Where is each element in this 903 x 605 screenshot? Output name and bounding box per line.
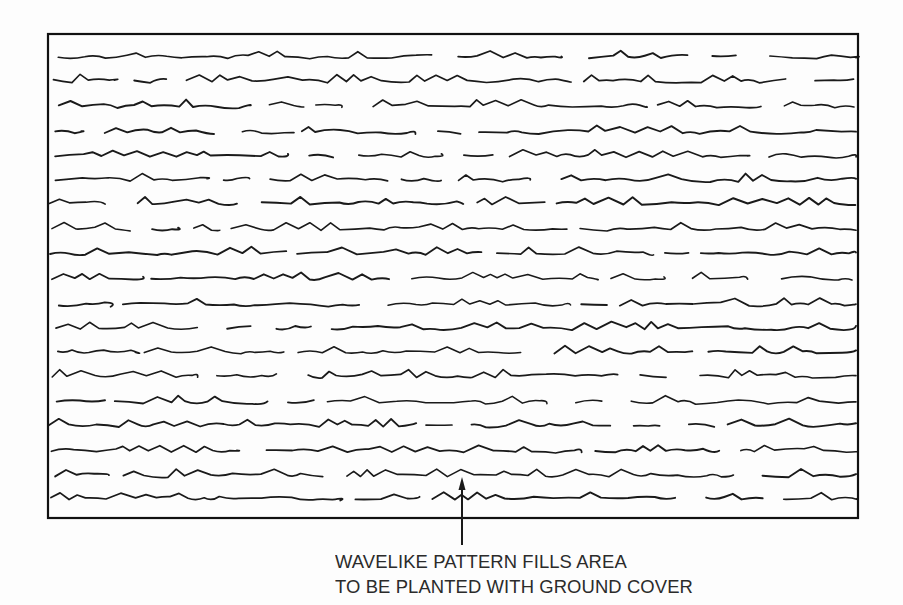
hatch-stroke bbox=[665, 253, 689, 254]
figure-caption: WAVELIKE PATTERN FILLS AREA TO BE PLANTE… bbox=[335, 549, 855, 599]
caption-line-1: WAVELIKE PATTERN FILLS AREA bbox=[335, 549, 839, 574]
hatch-stroke bbox=[712, 55, 736, 56]
hatch-stroke bbox=[57, 400, 105, 401]
wavelike-ground-cover-figure bbox=[0, 0, 903, 605]
caption-line-2: TO BE PLANTED WITH GROUND COVER bbox=[335, 574, 839, 599]
hatch-stroke bbox=[581, 304, 607, 305]
figure-page: WAVELIKE PATTERN FILLS AREA TO BE PLANTE… bbox=[0, 0, 903, 605]
hatch-stroke bbox=[634, 425, 660, 426]
